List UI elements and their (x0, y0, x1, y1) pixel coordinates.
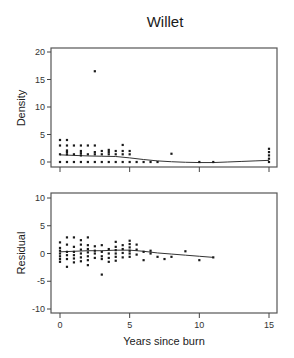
data-point (198, 161, 200, 163)
data-point (122, 244, 124, 246)
data-point (143, 259, 145, 261)
data-point (268, 148, 270, 150)
data-point (59, 139, 61, 141)
data-point (87, 255, 89, 257)
data-point (87, 144, 89, 146)
data-point (87, 248, 89, 250)
data-point (122, 161, 124, 163)
density-plot-frame (51, 48, 277, 167)
y-tick-label: 10 (35, 193, 45, 203)
y-tick-label: 20 (35, 47, 45, 57)
data-point (108, 252, 110, 254)
residual-y-axis: -10-50510 (32, 193, 51, 314)
data-point (66, 244, 68, 246)
figure: Willet 05101520 Density -10-50510 051015… (0, 0, 294, 358)
data-point (66, 251, 68, 253)
data-point (94, 161, 96, 163)
data-point (73, 251, 75, 253)
data-point (59, 250, 61, 252)
data-point (149, 250, 151, 252)
data-point (129, 250, 131, 252)
y-tick-label: 0 (40, 157, 45, 167)
data-point (66, 149, 68, 151)
data-point (59, 247, 61, 249)
data-point (73, 261, 75, 263)
data-point (129, 150, 131, 152)
data-point (136, 249, 138, 251)
data-point (122, 248, 124, 250)
data-point (136, 244, 138, 246)
data-point (73, 257, 75, 259)
data-point (87, 236, 89, 238)
data-point (80, 260, 82, 262)
data-point (80, 154, 82, 156)
density-smoother-line (60, 155, 269, 163)
data-point (108, 248, 110, 250)
data-point (156, 256, 158, 258)
density-points (59, 70, 270, 163)
data-point (101, 244, 103, 246)
data-point (101, 273, 103, 275)
data-point (94, 245, 96, 247)
data-point (115, 252, 117, 254)
data-point (129, 256, 131, 258)
data-point (59, 241, 61, 243)
residual-x-axis: 051015 (57, 313, 274, 330)
data-point (87, 161, 89, 163)
data-point (122, 153, 124, 155)
data-point (115, 260, 117, 262)
data-point (59, 255, 61, 257)
data-point (268, 154, 270, 156)
data-point (94, 250, 96, 252)
data-point (143, 161, 145, 163)
data-point (66, 266, 68, 268)
data-point (80, 150, 82, 152)
data-point (212, 256, 214, 258)
data-point (129, 252, 131, 254)
y-tick-label: 10 (35, 102, 45, 112)
data-point (94, 70, 96, 72)
data-point (156, 161, 158, 163)
data-point (268, 158, 270, 160)
x-axis-label: Years since burn (123, 335, 205, 347)
y-tick-label: 5 (40, 221, 45, 231)
data-point (87, 264, 89, 266)
data-point (115, 161, 117, 163)
data-point (59, 258, 61, 260)
data-point (129, 161, 131, 163)
data-point (94, 252, 96, 254)
density-panel: 05101520 Density (15, 47, 277, 172)
data-point (80, 239, 82, 241)
data-point (163, 258, 165, 260)
data-point (73, 144, 75, 146)
data-point (59, 252, 61, 254)
data-point (80, 249, 82, 251)
data-point (170, 153, 172, 155)
data-point (101, 255, 103, 257)
data-point (129, 246, 131, 248)
data-point (108, 149, 110, 151)
data-point (66, 139, 68, 141)
data-point (108, 153, 110, 155)
data-point (66, 258, 68, 260)
data-point (108, 151, 110, 153)
data-point (115, 249, 117, 251)
data-point (115, 241, 117, 243)
data-point (108, 261, 110, 263)
data-point (73, 246, 75, 248)
data-point (268, 161, 270, 163)
data-point (94, 153, 96, 155)
y-tick-label: -5 (37, 276, 45, 286)
data-point (94, 151, 96, 153)
data-point (94, 257, 96, 259)
residual-y-label: Residual (15, 232, 27, 275)
density-x-axis (60, 167, 269, 172)
data-point (268, 151, 270, 153)
residual-panel: -10-50510 051015 Residual Years since bu… (15, 193, 277, 347)
data-point (115, 246, 117, 248)
y-tick-label: 15 (35, 75, 45, 85)
density-y-label: Density (15, 89, 27, 126)
data-point (212, 161, 214, 163)
x-tick-label: 5 (127, 320, 132, 330)
data-point (73, 153, 75, 155)
